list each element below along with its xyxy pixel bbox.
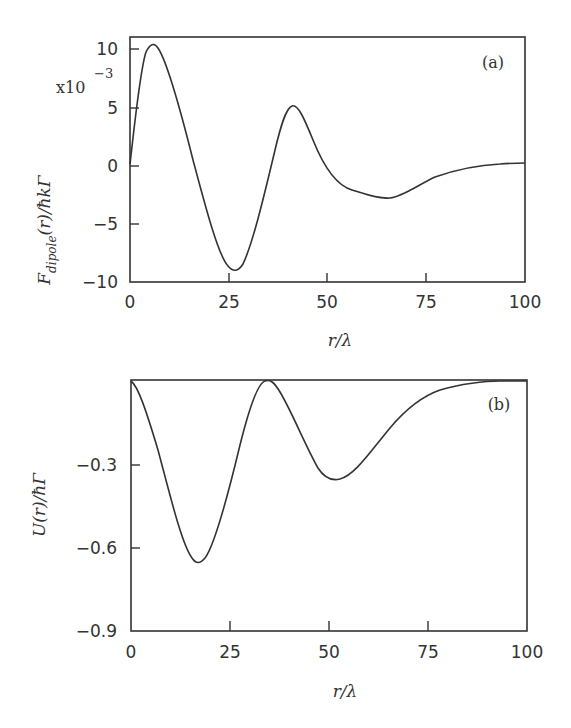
x-tick-label: 75	[417, 642, 439, 662]
x-ticks-a	[229, 273, 426, 282]
y-ticks-a	[130, 49, 139, 224]
x-tick-label: 50	[318, 642, 340, 662]
y-tick-label: −5	[93, 214, 118, 234]
x-tick-label: 0	[125, 292, 136, 312]
figure: 10 5 0 −5 −10 x10 −3 0 25 50 75 100 r/λ …	[0, 0, 571, 728]
y-tick-label: 0	[107, 156, 118, 176]
panel-tag-a: (a)	[482, 53, 504, 72]
x-tick-label: 50	[316, 292, 338, 312]
y-ticks-b	[131, 465, 140, 548]
x-tick-label: 100	[511, 642, 543, 662]
x-tick-label: 100	[509, 292, 541, 312]
y-axis-label-a: Fdipole(r)/ħkΓ	[34, 174, 59, 286]
y-multiplier-exponent: −3	[94, 66, 113, 81]
x-ticks-b	[230, 621, 428, 631]
curve-a	[130, 45, 525, 271]
x-axis-label-b: r/λ	[333, 681, 358, 701]
y-multiplier-base: x10	[56, 78, 85, 97]
x-tick-label: 25	[219, 642, 241, 662]
panel-a: 10 5 0 −5 −10 x10 −3 0 25 50 75 100 r/λ …	[34, 37, 541, 350]
x-tick-label: 75	[415, 292, 437, 312]
plot-frame-a	[130, 37, 525, 282]
panel-b: −0.3 −0.6 −0.9 0 25 50 75 100 r/λ U(r)/ħ…	[29, 380, 543, 701]
y-tick-label: −0.6	[76, 538, 117, 558]
y-tick-label: −0.3	[76, 455, 117, 475]
y-tick-label: 5	[107, 98, 118, 118]
y-tick-label: −10	[82, 272, 118, 292]
panel-tag-b: (b)	[488, 395, 511, 414]
curve-b	[131, 380, 527, 562]
y-tick-label: 10	[96, 39, 118, 59]
plot-frame-b	[131, 380, 527, 631]
y-axis-label-b: U(r)/ħΓ	[29, 472, 49, 537]
x-tick-label: 0	[126, 642, 137, 662]
y-tick-label: −0.9	[76, 621, 117, 641]
x-tick-label: 25	[218, 292, 240, 312]
x-axis-label-a: r/λ	[328, 330, 353, 350]
